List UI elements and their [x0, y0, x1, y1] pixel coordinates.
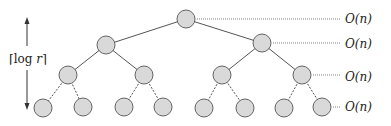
tree-node: [34, 99, 52, 117]
tree-node: [97, 36, 115, 54]
tree-edge: [186, 19, 262, 43]
arrow-up-icon: [25, 17, 30, 24]
tree-node: [135, 66, 153, 84]
arrow-down-icon: [25, 103, 30, 110]
level-guide-lines: [197, 19, 340, 107]
tree-canvas: ⌈log r⌉ O(n) O(n) O(n) O(n): [0, 0, 391, 126]
tree-node: [236, 99, 254, 117]
tree-node: [213, 66, 231, 84]
tree-edge: [106, 19, 186, 45]
level-cost-2: O(n): [345, 70, 372, 84]
level-cost-3: O(n): [345, 100, 372, 114]
tree-node: [313, 98, 331, 116]
tree-node: [195, 99, 213, 117]
recursion-tree-diagram: ⌈log r⌉ O(n) O(n) O(n) O(n): [0, 0, 391, 126]
tree-edges: [43, 19, 322, 108]
level-cost-0: O(n): [345, 12, 372, 26]
tree-node: [293, 66, 311, 84]
tree-node: [275, 99, 293, 117]
tree-node: [177, 10, 195, 28]
tree-node: [59, 66, 77, 84]
height-arrow: ⌈log r⌉: [9, 17, 47, 110]
tree-nodes: [34, 10, 331, 117]
height-label: ⌈log r⌉: [9, 52, 47, 66]
level-cost-1: O(n): [345, 37, 372, 51]
tree-node: [253, 34, 271, 52]
tree-node: [115, 98, 133, 116]
tree-node: [74, 98, 92, 116]
tree-node: [154, 98, 172, 116]
level-cost-labels: O(n) O(n) O(n) O(n): [345, 12, 372, 114]
